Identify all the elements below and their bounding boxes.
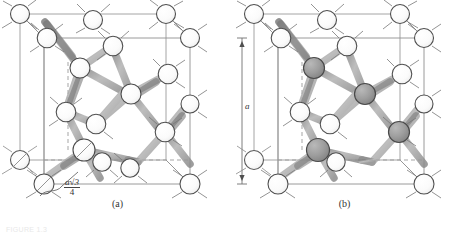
- atom-light: [310, 4, 344, 34]
- atom-light: [2, 0, 37, 29]
- figure-container: a√3 4 (a): [0, 0, 469, 234]
- atom-dark: [304, 58, 325, 79]
- atom-light: [121, 84, 141, 104]
- panel-label-a: (a): [0, 198, 235, 209]
- atom-light: [86, 114, 113, 139]
- atom-light: [73, 139, 95, 161]
- atom-dark: [355, 84, 376, 105]
- zincblende-lattice-svg: [220, 0, 469, 200]
- atom-light: [70, 58, 90, 78]
- figure-caption: FIGURE 1.3: [6, 226, 47, 233]
- atom-light: [383, 0, 418, 29]
- atom-light: [236, 0, 271, 29]
- panel-zincblende-structure: a (b): [220, 0, 469, 234]
- bond-length-denominator: 4: [64, 188, 80, 197]
- atom-light: [76, 4, 110, 34]
- panel-diamond-structure: a√3 4 (a): [0, 0, 235, 234]
- atom-dark: [389, 122, 410, 143]
- panel-label-b: (b): [220, 198, 469, 209]
- bond-length-annotation: a√3 4: [64, 178, 80, 197]
- atom-group-light: [236, 0, 441, 198]
- atom-dark: [307, 139, 330, 162]
- atom-light: [236, 146, 271, 175]
- atom-light: [149, 0, 184, 29]
- diamond-lattice-svg: [0, 0, 235, 200]
- atom-light: [2, 146, 37, 175]
- atom-light: [320, 114, 347, 139]
- lattice-constant-annotation: a: [245, 101, 250, 111]
- atom-group-light: [2, 0, 207, 198]
